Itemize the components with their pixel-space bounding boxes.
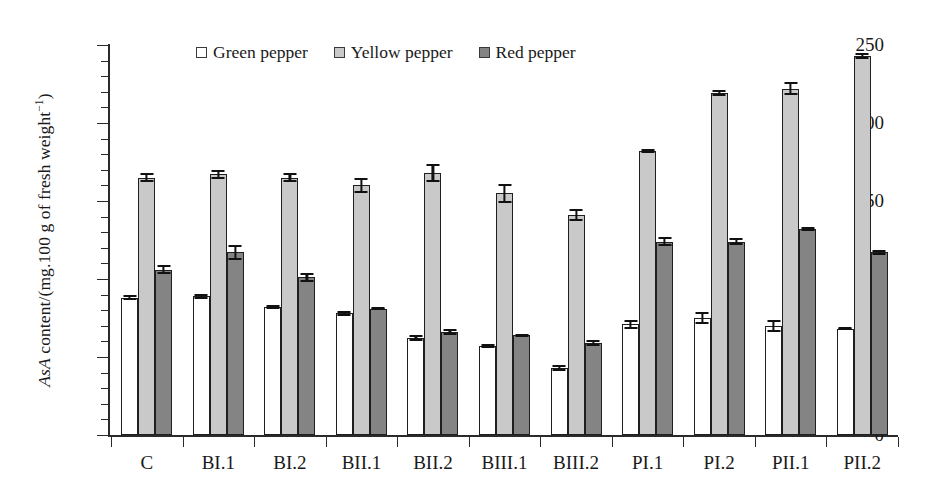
x-axis-category-label: BIII.1 [469,452,541,474]
bar[interactable] [210,174,227,435]
error-bar [140,173,153,182]
error-bar-cap-bottom [801,229,814,231]
y-axis-minor-tick [101,107,108,108]
error-bar [515,334,528,337]
bar[interactable] [353,185,370,435]
error-bar [784,82,797,94]
error-bar-cap-bottom [498,201,511,203]
error-bar-cap-top [140,173,153,175]
bar[interactable] [121,298,138,435]
bar[interactable] [799,229,816,435]
bar[interactable] [227,252,244,435]
error-bar [443,329,456,335]
bar[interactable] [765,326,782,435]
bar[interactable] [585,343,602,435]
bar[interactable] [711,93,728,435]
bar[interactable] [854,56,871,435]
error-bar-cap-bottom [481,346,494,348]
x-axis-category-label: BII.2 [397,452,469,474]
bar-slot [837,329,854,435]
bar[interactable] [193,296,210,435]
bar-slot [281,178,298,435]
bar[interactable] [639,151,656,435]
bar[interactable] [656,242,673,435]
error-bar-cap-bottom [696,322,709,324]
error-bar-cap-top [283,173,296,175]
error-bar-cap-bottom [553,369,566,371]
x-axis-tick [755,437,756,447]
error-bar [195,294,208,299]
error-bar-cap-top [157,265,170,267]
error-bar [157,265,170,274]
error-bar-cap-bottom [443,333,456,335]
error-bar-cap-bottom [212,177,225,179]
bar[interactable] [264,307,281,435]
x-axis-category-label: PII.2 [826,452,898,474]
bar[interactable] [728,242,745,435]
error-bar [355,178,368,194]
bar[interactable] [871,252,888,435]
bar[interactable] [479,346,496,435]
error-bar [730,238,743,244]
y-axis-minor-tick [101,76,108,77]
bar-group [755,45,827,435]
y-axis-minor-tick [101,139,108,140]
bar[interactable] [568,215,585,435]
x-axis-category-label: PII.1 [755,452,827,474]
error-bar-cap-top [587,340,600,342]
bar-slot [728,242,745,435]
error-bar-cap-top [229,245,242,247]
bar[interactable] [336,313,353,435]
bar[interactable] [424,173,441,435]
y-axis-title-close: ) [34,93,54,99]
bar[interactable] [513,335,530,435]
error-bar-cap-bottom [355,191,368,193]
bar[interactable] [370,309,387,435]
x-axis-category-label: PI.2 [683,452,755,474]
bar[interactable] [281,178,298,435]
bar-groups [111,45,898,435]
error-bar-cap-top [767,320,780,322]
bar-slot [424,173,441,435]
error-bar-cap-top [426,164,439,166]
bar-group [254,45,326,435]
y-axis-major-tick [97,279,108,280]
error-bar-cap-bottom [873,253,886,255]
error-bar [481,344,494,349]
y-axis-major-tick [97,435,108,436]
bar[interactable] [138,178,155,435]
bar[interactable] [407,338,424,435]
x-axis-tick [898,437,899,447]
error-bar [300,273,313,282]
bar-slot [155,270,172,435]
error-bar [283,173,296,182]
x-axis-category-label: BI.2 [254,452,326,474]
error-bar-cap-top [730,238,743,240]
bar-slot [121,298,138,435]
y-axis-major-tick [97,357,108,358]
error-bar-cap-bottom [426,180,439,182]
bar[interactable] [551,368,568,435]
bar[interactable] [155,270,172,435]
bar[interactable] [782,89,799,435]
error-bar [123,295,136,300]
bar[interactable] [298,277,315,435]
bar-slot [513,335,530,435]
bar[interactable] [622,324,639,435]
y-axis-minor-tick [101,92,108,93]
bar[interactable] [694,318,711,435]
x-axis-tick [469,437,470,447]
y-axis-title-superscript: −1 [33,99,45,112]
x-axis-category-label: BIII.2 [540,452,612,474]
bar[interactable] [441,332,458,435]
error-bar [570,209,583,221]
bar[interactable] [496,193,513,435]
bar-slot [264,307,281,435]
error-bar-cap-bottom [713,94,726,96]
error-bar-cap-bottom [856,57,869,59]
bar-group [111,45,183,435]
bar-group [397,45,469,435]
bar[interactable] [837,329,854,435]
error-bar-cap-bottom [372,308,385,310]
bar-slot [370,309,387,435]
